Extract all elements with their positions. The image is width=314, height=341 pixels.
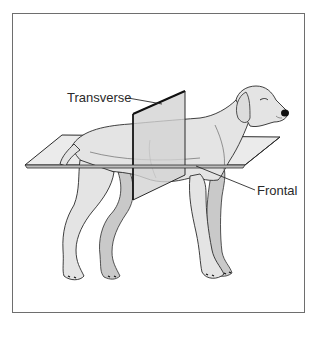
dog-anatomical-planes-illustration bbox=[0, 0, 314, 341]
frontal-plane-label: Frontal bbox=[257, 184, 297, 197]
nose-icon bbox=[281, 110, 289, 117]
transverse-leader-line bbox=[128, 98, 162, 104]
transverse-plane bbox=[133, 91, 185, 200]
transverse-plane-label: Transverse bbox=[67, 91, 132, 104]
